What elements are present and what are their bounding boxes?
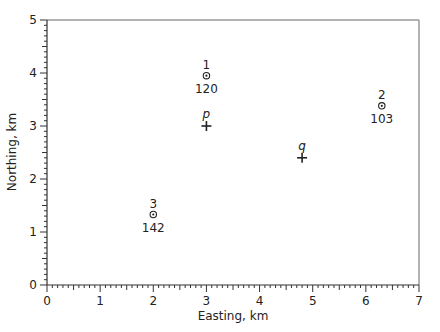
station-2: 2103 [370, 88, 393, 126]
y-tick-label: 5 [29, 13, 37, 27]
center-dot [381, 105, 383, 107]
x-tick-label: 4 [256, 294, 264, 308]
center-dot [205, 75, 207, 77]
y-tick-label: 4 [29, 66, 37, 80]
station-value-label: 120 [195, 82, 218, 96]
station-value-label: 142 [142, 221, 165, 235]
y-axis-label: Northing, km [5, 113, 19, 191]
plot-frame [47, 20, 419, 285]
station-3: 3142 [142, 197, 165, 235]
x-tick-label: 1 [96, 294, 104, 308]
station-id-label: 1 [203, 58, 211, 72]
x-axis: 01234567 [43, 285, 423, 308]
query-point-label: p [202, 107, 211, 121]
x-tick-label: 5 [309, 294, 317, 308]
y-tick-label: 0 [29, 278, 37, 292]
y-tick-label: 2 [29, 172, 37, 186]
x-tick-label: 2 [149, 294, 157, 308]
query-point-label: q [298, 139, 306, 153]
station-1: 1120 [195, 58, 218, 96]
data-points: 112021033142pq [142, 58, 393, 235]
station-value-label: 103 [370, 112, 393, 126]
x-tick-label: 0 [43, 294, 51, 308]
query-point-p: p [201, 107, 211, 131]
query-point-q: q [297, 139, 307, 163]
scatter-chart: 01234567 012345 Easting, km Northing, km… [0, 0, 440, 332]
y-tick-label: 3 [29, 119, 37, 133]
station-id-label: 3 [149, 197, 157, 211]
x-tick-label: 7 [415, 294, 423, 308]
y-axis: 012345 [29, 13, 47, 292]
x-axis-label: Easting, km [198, 309, 269, 323]
center-dot [152, 213, 154, 215]
y-tick-label: 1 [29, 225, 37, 239]
station-id-label: 2 [378, 88, 386, 102]
x-tick-label: 3 [203, 294, 211, 308]
x-tick-label: 6 [362, 294, 370, 308]
